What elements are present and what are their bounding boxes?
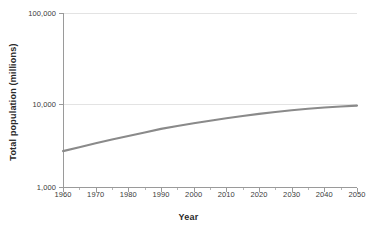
series-line-total-population	[63, 106, 357, 152]
y-axis-title: Total population (millions)	[8, 17, 18, 187]
population-line-chart: 100,000 10,000 1,000 1960197019801990200…	[0, 0, 377, 236]
x-axis-title: Year	[0, 212, 377, 222]
series-layer	[0, 0, 377, 236]
